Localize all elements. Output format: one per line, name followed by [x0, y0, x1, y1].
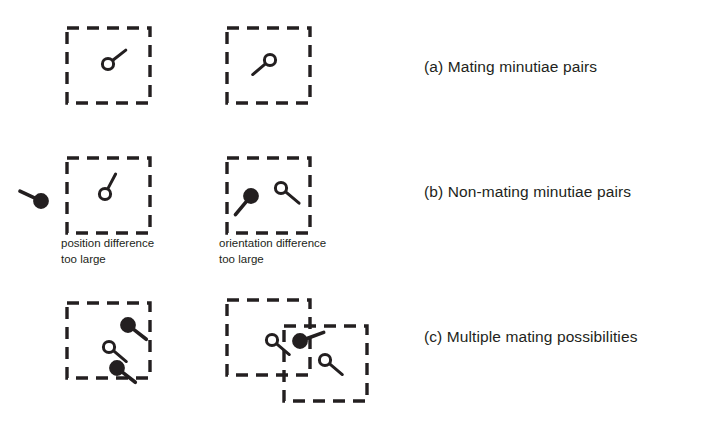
minutia-direction-tail	[108, 174, 116, 189]
minutia-direction-tail	[253, 64, 266, 75]
row-b	[20, 158, 310, 233]
minutia-point	[266, 334, 277, 345]
minutia-point	[275, 182, 286, 193]
minutia-point	[35, 195, 47, 207]
minutia-direction-tail	[133, 329, 146, 339]
minutia-marker-open	[103, 341, 126, 361]
figure-root: (a) Mating minutiae pairs (b) Non-mating…	[0, 0, 721, 424]
caption-a: (a) Mating minutiae pairs	[424, 57, 597, 76]
minutia-marker-open	[102, 50, 125, 70]
minutia-direction-tail	[122, 372, 135, 382]
minutiae-region-box	[227, 28, 310, 103]
row-c	[67, 300, 367, 401]
sub-caption-orientation-difference: orientation difference too large	[219, 236, 326, 267]
minutiae-diagram-canvas	[0, 0, 721, 424]
sub-caption-position-difference: position difference too large	[61, 236, 154, 267]
minutia-direction-tail	[114, 351, 127, 362]
minutia-direction-tail	[330, 364, 343, 375]
minutia-point	[111, 362, 123, 374]
minutia-marker-open	[319, 354, 342, 374]
minutiae-region-box	[67, 303, 150, 378]
minutia-marker-open	[99, 174, 115, 200]
minutiae-region-box	[227, 300, 310, 375]
minutiae-region-box	[284, 326, 367, 401]
minutia-point	[99, 188, 110, 199]
minutia-marker-filled	[235, 190, 257, 215]
minutiae-region-box	[67, 28, 150, 103]
caption-c: (c) Multiple mating possibilities	[424, 327, 637, 346]
minutia-point	[102, 58, 113, 69]
minutia-direction-tail	[277, 344, 290, 355]
row-a	[67, 28, 310, 103]
minutia-point	[122, 319, 134, 331]
minutia-direction-tail	[113, 50, 126, 60]
minutia-marker-open	[275, 182, 299, 203]
minutia-point	[103, 341, 114, 352]
minutia-marker-open	[253, 54, 276, 74]
minutia-marker-filled	[294, 332, 324, 347]
minutia-marker-filled	[111, 362, 135, 382]
minutiae-region-box	[67, 158, 150, 233]
minutia-marker-filled	[122, 319, 146, 339]
minutiae-region-box	[227, 158, 310, 233]
minutia-point	[264, 54, 275, 65]
minutia-direction-tail	[306, 332, 323, 338]
minutia-point	[245, 190, 257, 202]
minutia-direction-tail	[235, 201, 246, 214]
minutia-marker-filled	[20, 191, 47, 207]
minutia-marker-open	[266, 334, 289, 354]
minutia-point	[294, 335, 306, 347]
minutia-point	[319, 354, 330, 365]
caption-b: (b) Non-mating minutiae pairs	[424, 182, 631, 201]
minutia-direction-tail	[286, 192, 299, 203]
minutia-direction-tail	[20, 191, 35, 198]
